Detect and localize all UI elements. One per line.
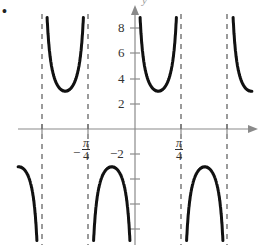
x-tick-sign-neg: − [73, 145, 80, 161]
csc-graph [0, 0, 263, 245]
curve-branch [187, 167, 223, 241]
curve-branch [140, 17, 176, 91]
y-tick-label-8: 8 [118, 20, 125, 36]
y-tick-label-2: 2 [118, 96, 125, 112]
curve-branch [47, 17, 83, 91]
problem-marker: • [2, 4, 7, 20]
y-tick-label-neg2: −2 [110, 146, 124, 162]
x-tick-label-pi-4: π 4 [175, 137, 183, 162]
curve-branch [233, 17, 252, 91]
y-tick-label-4: 4 [118, 71, 125, 87]
x-axis-arrow-icon [248, 125, 258, 133]
curve-branch [94, 167, 130, 241]
curve-branch [18, 167, 37, 241]
y-axis-label: y [142, 0, 147, 6]
y-axis-arrow-icon [131, 5, 139, 15]
y-tick-label-6: 6 [118, 45, 125, 61]
x-tick-label-neg-pi-4: π 4 [82, 137, 90, 162]
